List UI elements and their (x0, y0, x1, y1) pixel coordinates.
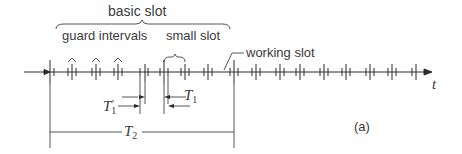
t1-markers (118, 76, 190, 114)
working-slot-label: working slot (246, 45, 315, 60)
t2-subscript: 2 (132, 130, 137, 141)
t2-label: T2 (124, 123, 137, 140)
small-slot-brace (164, 54, 185, 62)
guard-interval-carets (68, 58, 122, 62)
guard-intervals-label: guard intervals (62, 28, 147, 43)
time-axis-label: t (432, 76, 436, 93)
t1-prime-mark: ' (111, 97, 113, 109)
t2-dimension (50, 84, 234, 148)
time-axis (24, 69, 432, 75)
basic-slot-label: basic slot (108, 3, 166, 19)
t1-subscript: 1 (192, 94, 197, 105)
panel-label: (a) (354, 119, 370, 134)
t1-prime-label: T1' (103, 98, 119, 115)
timing-diagram (0, 0, 462, 154)
t1-label: T1 (184, 87, 197, 104)
small-slot-label: small slot (166, 28, 220, 43)
